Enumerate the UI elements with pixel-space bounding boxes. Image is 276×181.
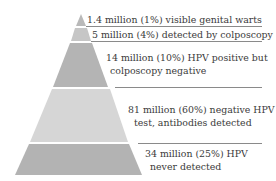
layer-5-label-line1: 34 million (25%) HPV [145,148,248,159]
layer-4-label-line1: 81 million (60%) negative HPV [128,104,275,115]
pyramid-layer-2 [71,28,91,41]
layer-1-label: 1.4 million (1%) visible genital warts [87,14,262,25]
layer-4-label-line2: test, antibodies detected [134,117,252,128]
pyramid-layer-1 [76,14,86,26]
pyramid-layer-4 [30,89,128,142]
layer-3-label-line2: colposcopy negative [110,65,206,76]
pyramid-layer-5 [15,144,142,175]
layer-2-label: 5 million (4%) detected by colposcopy [92,29,273,40]
layer-3-label-line1: 14 million (10%) HPV positive but [106,52,268,63]
pyramid-layer-3 [53,43,108,87]
layer-5-label-line2: never detected [150,161,221,172]
